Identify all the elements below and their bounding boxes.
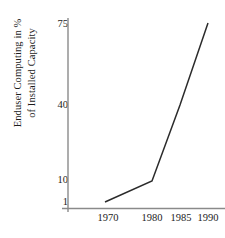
plot-area (0, 0, 225, 238)
chart-figure: Enduser Computing in % of Installed Capa… (0, 0, 225, 238)
data-series-line (105, 23, 208, 202)
